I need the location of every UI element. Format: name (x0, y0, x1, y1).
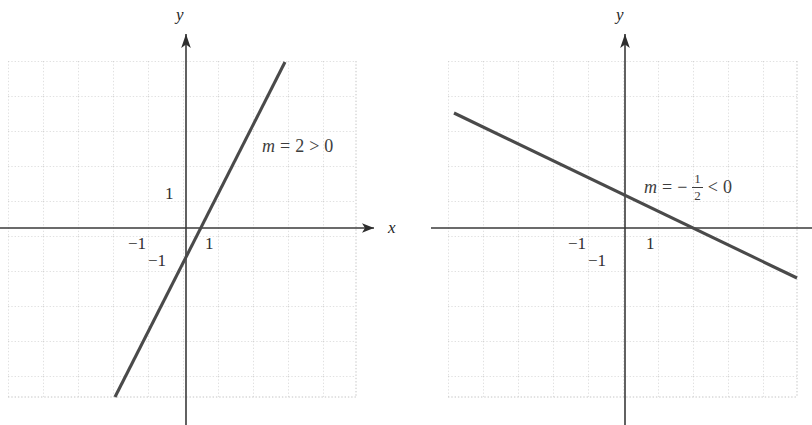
slope-value: 2 (295, 137, 304, 155)
grid (8, 61, 356, 397)
y-tick-label-negative-one: −1 (148, 252, 166, 269)
positive-slope-panel: y x −1 1 1 −1 m = 2 > 0 (0, 0, 406, 425)
y-axis-label: y (616, 6, 624, 23)
equals-sign: = (280, 137, 290, 155)
negative-slope-plot (406, 0, 812, 425)
comparison-sign: < (708, 178, 718, 196)
comparison-sign: > (309, 137, 319, 155)
x-tick-label-negative-one: −1 (568, 235, 586, 252)
slope-figure: y x −1 1 1 −1 m = 2 > 0 (0, 0, 812, 425)
x-tick-label-one: 1 (205, 235, 214, 252)
x-axis-label: x (388, 219, 396, 236)
slope-annotation-positive: m = 2 > 0 (262, 137, 333, 155)
positive-slope-plot (0, 0, 406, 425)
equals-sign: = (662, 178, 672, 196)
minus-sign: − (677, 178, 687, 196)
zero-value: 0 (723, 178, 732, 196)
y-tick-label-negative-one: −1 (588, 252, 606, 269)
x-tick-label-negative-one: −1 (128, 235, 146, 252)
zero-value: 0 (324, 137, 333, 155)
negative-slope-panel: y −1 1 −1 m = − 1 2 < 0 (406, 0, 812, 425)
slope-variable: m (262, 137, 275, 155)
y-tick-label-one: 1 (165, 185, 174, 202)
x-tick-label-one: 1 (646, 235, 655, 252)
fraction-denominator: 2 (692, 188, 703, 203)
slope-annotation-negative: m = − 1 2 < 0 (644, 172, 732, 202)
fraction-one-half: 1 2 (692, 172, 703, 202)
grid (448, 61, 797, 397)
slope-variable: m (644, 178, 657, 196)
fraction-numerator: 1 (692, 172, 703, 188)
y-axis-label: y (176, 6, 184, 23)
